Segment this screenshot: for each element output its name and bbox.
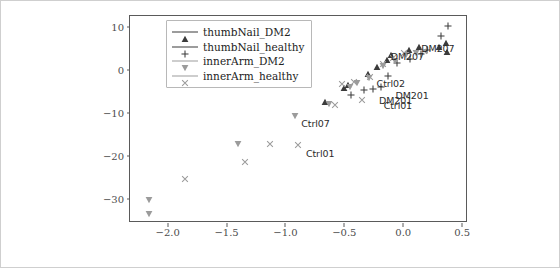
chart-legend: thumbNail_DM2thumbNail_healthyinnerArm_D… (166, 20, 312, 88)
x-axis-tick-mark (226, 223, 227, 227)
y-axis-tick-mark (127, 26, 131, 27)
legend-label: innerArm_DM2 (203, 55, 285, 67)
point-annotation: Ctrl01 (306, 148, 334, 159)
y-axis-tick-mark (127, 69, 131, 70)
legend-label: thumbNail_healthy (203, 41, 304, 53)
legend-item: innerArm_DM2 (172, 54, 304, 69)
y-axis-tick-mark (127, 199, 131, 200)
x-axis-tick-mark (462, 223, 463, 227)
legend-item: thumbNail_DM2 (172, 25, 304, 40)
legend-item: thumbNail_healthy (172, 40, 304, 55)
point-annotation: DM207 (391, 51, 424, 62)
plot-axes: Ctrl07Ctrl01Ctrl02Ctrl01DM201DM201DM207D… (129, 15, 467, 222)
legend-marker-sample (172, 40, 198, 54)
y-axis-tick-mark (127, 156, 131, 157)
legend-label: innerArm_healthy (203, 70, 298, 82)
x-axis-tick-mark (167, 223, 168, 227)
legend-marker-sample (172, 54, 198, 68)
y-axis-tick-mark (127, 113, 131, 114)
x-axis-tick-mark (403, 223, 404, 227)
x-axis-tick-mark (285, 223, 286, 227)
x-axis-tick-mark (344, 223, 345, 227)
legend-marker-sample (172, 25, 198, 39)
point-annotation: DM207 (421, 43, 454, 54)
point-annotation: Ctrl02 (377, 78, 405, 89)
point-annotation: Ctrl07 (301, 118, 329, 129)
figure-canvas: Ctrl07Ctrl01Ctrl02Ctrl01DM201DM201DM207D… (0, 0, 560, 268)
legend-item: innerArm_healthy (172, 69, 304, 84)
legend-label: thumbNail_DM2 (203, 26, 291, 38)
legend-marker-sample (172, 69, 198, 83)
point-annotation: DM201 (395, 90, 428, 101)
